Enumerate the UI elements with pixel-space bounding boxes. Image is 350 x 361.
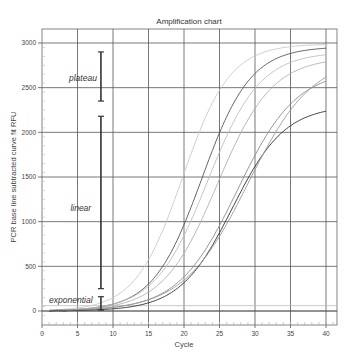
phase-label-exponential: exponential [49, 295, 94, 305]
x-tick-label: 15 [145, 330, 153, 337]
amplification-chart: Amplification chart 05001000150020002500… [0, 0, 350, 361]
y-axis-label: PCR base line subtracted curve fit RFU [9, 112, 18, 243]
x-axis-ticks: 0510152025303540 [40, 325, 330, 337]
y-axis-ticks: 050010001500200025003000 [22, 39, 42, 314]
y-tick-label: 1500 [22, 173, 37, 180]
y-tick-label: 500 [25, 263, 36, 270]
x-tick-label: 25 [216, 330, 224, 337]
y-tick-label: 2000 [22, 129, 37, 136]
x-tick-label: 0 [40, 330, 44, 337]
y-tick-label: 2500 [22, 84, 37, 91]
phase-label-plateau: plateau [68, 73, 97, 83]
chart-title: Amplification chart [156, 17, 222, 26]
x-tick-label: 10 [109, 330, 117, 337]
x-tick-label: 5 [76, 330, 80, 337]
phase-label-linear: linear [70, 203, 92, 213]
y-tick-label: 3000 [22, 39, 37, 46]
x-tick-label: 35 [287, 330, 295, 337]
x-tick-label: 40 [322, 330, 330, 337]
y-tick-label: 1000 [22, 218, 37, 225]
y-tick-label: 0 [32, 307, 36, 314]
x-axis-label: Cycle [175, 340, 194, 349]
x-tick-label: 20 [180, 330, 188, 337]
x-tick-label: 30 [251, 330, 259, 337]
